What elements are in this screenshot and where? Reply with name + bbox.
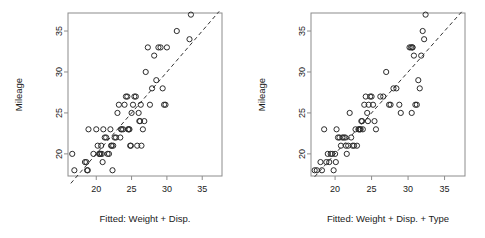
data-point: [70, 151, 75, 156]
data-point: [409, 110, 414, 115]
data-point: [334, 127, 339, 132]
x-tick-label: 30: [403, 184, 413, 194]
data-point: [130, 102, 135, 107]
identity-reference-line: [71, 11, 219, 183]
y-tick-label: 35: [54, 26, 64, 36]
scatter-panel-right: 2025303520253035Fitted: Weight + Disp. +…: [243, 0, 485, 238]
data-points: [312, 12, 428, 173]
data-point: [416, 78, 421, 83]
data-point: [384, 69, 389, 74]
data-point: [322, 127, 327, 132]
data-point: [373, 127, 378, 132]
data-point: [149, 86, 154, 91]
data-point: [187, 37, 192, 42]
data-point: [331, 168, 336, 173]
y-tick-label: 20: [297, 149, 307, 159]
y-axis-title: Mileage: [256, 78, 267, 111]
data-point: [344, 151, 349, 156]
data-point: [101, 127, 106, 132]
data-point: [422, 37, 427, 42]
x-axis-title: Fitted: Weight + Disp. + Type: [327, 213, 449, 224]
data-point: [164, 45, 169, 50]
data-point: [147, 102, 152, 107]
y-tick-label: 25: [297, 108, 307, 118]
data-point: [397, 102, 402, 107]
y-tick-label: 20: [54, 149, 64, 159]
x-tick-label: 35: [440, 184, 450, 194]
figure-container: 2025303520253035Fitted: Weight + Disp.Mi…: [0, 0, 485, 238]
data-point: [140, 127, 145, 132]
x-tick-label: 30: [162, 184, 172, 194]
plot-frame: [68, 13, 222, 176]
data-point: [86, 127, 91, 132]
x-tick-label: 25: [367, 184, 377, 194]
data-point: [100, 159, 105, 164]
data-point: [420, 28, 425, 33]
data-point: [174, 28, 179, 33]
data-point: [110, 168, 115, 173]
x-tick-label: 20: [330, 184, 340, 194]
data-point: [94, 127, 99, 132]
x-tick-label: 25: [127, 184, 137, 194]
data-point: [160, 86, 165, 91]
y-tick-label: 35: [297, 26, 307, 36]
data-point: [411, 53, 416, 58]
data-point: [417, 86, 422, 91]
x-tick-label: 20: [91, 184, 101, 194]
x-axis-title: Fitted: Weight + Disp.: [100, 213, 191, 224]
y-axis-title: Mileage: [13, 78, 24, 111]
y-tick-label: 30: [54, 67, 64, 77]
data-point: [398, 110, 403, 115]
data-point: [91, 151, 96, 156]
data-point: [72, 168, 77, 173]
data-point: [347, 110, 352, 115]
y-tick-label: 25: [54, 108, 64, 118]
data-point: [143, 69, 148, 74]
data-points: [70, 12, 194, 173]
y-tick-label: 30: [297, 67, 307, 77]
data-point: [365, 110, 370, 115]
data-point: [372, 119, 377, 124]
data-point: [318, 159, 323, 164]
data-point: [154, 78, 159, 83]
scatter-panel-left: 2025303520253035Fitted: Weight + Disp.Mi…: [0, 0, 242, 238]
data-point: [365, 119, 370, 124]
x-tick-label: 35: [197, 184, 207, 194]
data-point: [145, 45, 150, 50]
data-point: [116, 102, 121, 107]
data-point: [122, 102, 127, 107]
data-point: [115, 110, 120, 115]
data-point: [152, 53, 157, 58]
data-point: [108, 127, 113, 132]
data-point: [136, 110, 141, 115]
data-point: [333, 159, 338, 164]
data-point: [338, 143, 343, 148]
